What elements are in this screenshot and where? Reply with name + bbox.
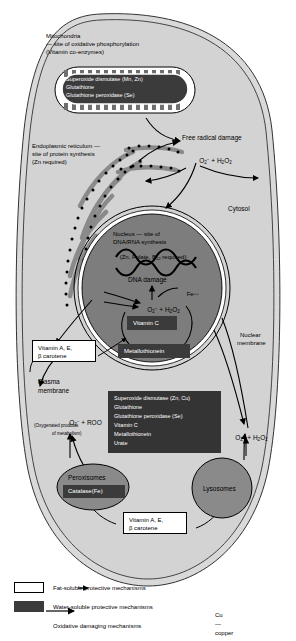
legend-label-water-soluble: Water-soluble protective mechanisms [53, 604, 153, 610]
vitamin-box-left: Vitamin A, E, β carotene [32, 340, 96, 362]
mineral-abbreviation-list: Cu — copper Fe — iron Mn — manganese Se … [205, 584, 246, 641]
mitochondria-enzyme-2: Glutathione [66, 84, 94, 90]
nucleus-label-line1: Nucleus — site of [113, 231, 160, 238]
mineral-dash-cu: — [215, 621, 221, 627]
iron-ion-label: Fe++ [180, 284, 199, 304]
free-radical-formula: O2− + H2O2 [192, 150, 232, 172]
legend-row-oxidative: Oxidative damaging mechanisms [14, 620, 153, 631]
legend-row-fat-soluble: Fat-soluble protective mechanisms [14, 582, 153, 593]
er-label-line3: (Zn required) [32, 159, 67, 166]
cytosol-item-4: Vitamin C [114, 422, 138, 428]
legend: Fat-soluble protective mechanisms Water-… [14, 582, 153, 631]
cytosol-item-5: Metallothionein [114, 431, 151, 437]
roo-caption-line1: (Oxygenated products [34, 423, 78, 428]
catalase-label: Catalase(Fe) [68, 488, 103, 495]
er-label-line1: Endoplasmic reticulum — [32, 143, 100, 150]
roo-caption-line2: of metabolism) [52, 431, 82, 436]
mineral-row-cu: Cu — copper [205, 602, 246, 641]
nucleus-metallothionein-box: Metallothionein [118, 344, 190, 358]
legend-swatch-white-box [14, 582, 44, 593]
mitochondria-enzyme-3: Glutathione peroxidase (Se) [66, 92, 134, 98]
catalase-box: Catalase(Fe) [63, 485, 125, 498]
legend-row-water-soluble: Water-soluble protective mechanisms [14, 601, 153, 612]
er-label-line2: site of protein synthesis [32, 151, 95, 158]
nucleus-vitamin-c-box: Vitamin C [127, 316, 177, 330]
cytosol-item-6: Urate [114, 440, 127, 446]
legend-swatch-arrow-line [14, 620, 44, 631]
cytosol-label: Cytosol [228, 205, 250, 212]
lysosomes-label: Lysosomes [203, 485, 236, 492]
mitochondria-label-line3: (Vitamin co-enzymes) [46, 49, 104, 56]
plasma-membrane-label-line2: membrane [38, 387, 69, 394]
free-radical-damage-label: Free radical damage [182, 134, 242, 141]
vitamin-box-left-line1: Vitamin A, E, [38, 345, 72, 352]
nucleus-label-line2: DNA/RNA synthesis [113, 239, 166, 246]
legend-label-fat-soluble: Fat-soluble protective mechanisms [53, 585, 146, 591]
cytosol-item-3: Glutathione peroxidase (Se) [114, 413, 182, 419]
mitochondria-label-line2: — site of oxidative phosphorylation [46, 41, 139, 48]
legend-label-oxidative: Oxidative damaging mechanisms [53, 623, 141, 629]
nucleus-metallothionein-label: Metallothionein [124, 348, 164, 355]
cytosol-item-2: Glutathione [114, 404, 142, 410]
mineral-symbol-cu: Cu [215, 612, 223, 618]
vitamin-box-bottom: Vitamin A, E, β carotene [123, 512, 187, 534]
vitamin-box-bottom-line1: Vitamin A, E, [129, 517, 163, 524]
mitochondria-enzyme-1: Superoxide dismutase (Mn, Zn) [66, 76, 143, 82]
mitochondria-label-line1: Mitochondria [46, 33, 80, 40]
cytosol-item-1: Superoxide dismutase (Zn, Cu) [114, 395, 190, 401]
nucleus-label-line3: (Zn, Folate, B12 required) [113, 247, 186, 268]
cell-diagram-figure: Mitochondria — site of oxidative phospho… [0, 0, 296, 641]
cytosol-protective-box: Superoxide dismutase (Zn, Cu) Glutathion… [108, 391, 221, 453]
nucleus-vitamin-c-label: Vitamin C [133, 320, 159, 327]
mineral-name-cu: copper [215, 630, 233, 636]
legend-swatch-dark-box [14, 601, 44, 612]
dna-damage-label: DNA damage [128, 276, 167, 283]
plasma-membrane-label-line1: Plasma [38, 378, 60, 385]
nuclear-membrane-label-line2: membrane [237, 340, 266, 347]
vitamin-box-bottom-line2: β carotene [129, 525, 157, 532]
peroxisomes-label: Peroxisomes [68, 474, 106, 481]
right-radical-formula: O2− + H2O2 [228, 427, 268, 449]
vitamin-box-left-line2: β carotene [38, 353, 66, 360]
nuclear-membrane-label-line1: Nuclear [240, 332, 261, 339]
